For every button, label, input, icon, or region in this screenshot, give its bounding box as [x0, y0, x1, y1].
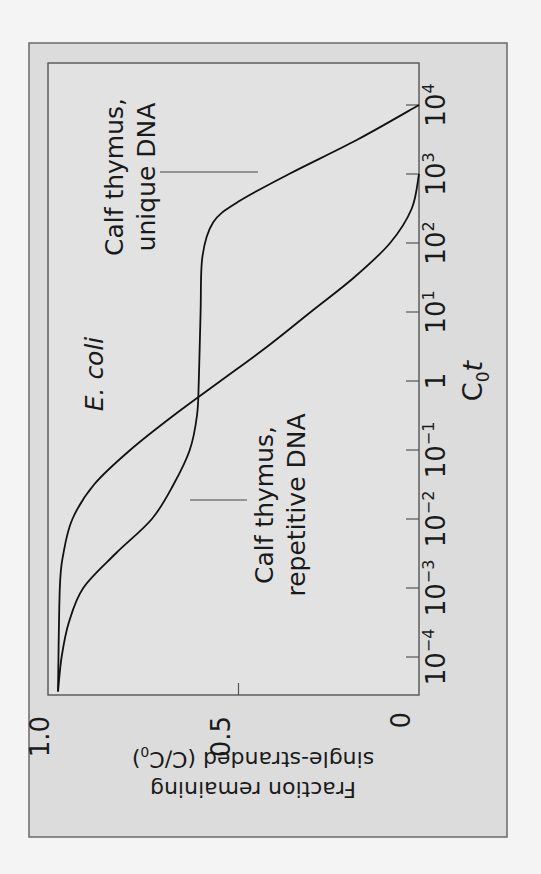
- y-tick-label: 0: [386, 712, 416, 729]
- unique-dna-label-line2: unique DNA: [132, 103, 161, 252]
- y-axis-title-line2: single-stranded (C/C0): [132, 744, 374, 772]
- y-axis-title-line1: Fraction remaining: [150, 777, 356, 802]
- chart-figure: 10−410−310−210−11101102103104 00.51.0 E.…: [0, 0, 541, 874]
- x-tick-label: 1: [421, 373, 451, 390]
- unique-dna-label-line1: Calf thymus,: [100, 98, 129, 256]
- repetitive-dna-label-line2: repetitive DNA: [282, 413, 311, 596]
- y-tick-label: 1.0: [25, 716, 55, 757]
- repetitive-dna-label-line1: Calf thymus,: [250, 426, 279, 584]
- ecoli-label: E. coli: [80, 337, 109, 412]
